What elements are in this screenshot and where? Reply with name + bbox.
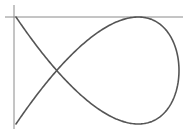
lissajous-curve: [16, 17, 179, 124]
lissajous-chart: [0, 0, 196, 133]
